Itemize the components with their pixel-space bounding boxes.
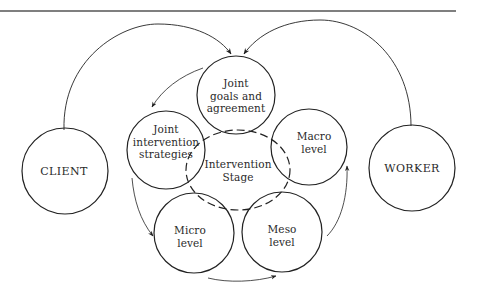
micro-label: Micro level: [174, 224, 206, 249]
client-label: CLIENT: [40, 166, 87, 179]
goals-to-strategies-arrow: [152, 68, 203, 107]
diagram-canvas: [0, 0, 478, 295]
meso-label: Meso level: [267, 223, 296, 248]
strategies-to-micro-arrow: [132, 178, 153, 236]
micro-to-meso-arrow: [208, 276, 276, 281]
stage-label: Intervention Stage: [204, 158, 271, 183]
goals-label: Joint goals and agreement: [207, 77, 265, 115]
worker-to-goals-arrow: [244, 20, 411, 126]
macro-label: Macro level: [297, 130, 332, 155]
strategies-label: Joint intervention strategies: [133, 123, 199, 161]
intervention-stage-diagram: CLIENT WORKER Joint goals and agreement …: [0, 0, 478, 295]
worker-label: WORKER: [384, 163, 440, 176]
meso-to-macro-arrow: [327, 166, 347, 236]
